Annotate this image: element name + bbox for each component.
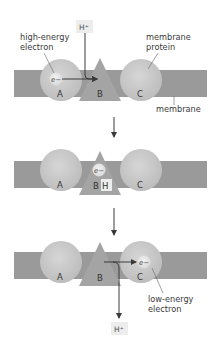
proton-label: H⁺ — [114, 325, 124, 334]
proton-label: H⁺ — [79, 23, 89, 32]
high-energy-label-1: high-energy — [20, 32, 69, 42]
protein-c-label: C — [137, 180, 143, 190]
membrane-protein-label-1: membrane — [146, 32, 191, 42]
panel-3: e− A B C H⁺ low-energy electron — [14, 241, 207, 335]
electron-label: e− — [139, 259, 149, 267]
protein-a-label: A — [57, 180, 63, 190]
panel-2: e− H A B C — [14, 149, 207, 195]
membrane-protein-label-2: protein — [146, 42, 175, 52]
low-energy-label-2: electron — [148, 304, 181, 314]
protein-b-label: B — [97, 89, 103, 99]
electron-label: e− — [94, 167, 104, 175]
panel-1: e− A B C H⁺ high-energy electron membran… — [14, 20, 207, 114]
membrane-label: membrane — [156, 104, 201, 114]
high-energy-label-2: electron — [20, 42, 53, 52]
protein-b-label: B — [93, 181, 99, 191]
protein-b-label: B — [97, 273, 103, 283]
proton-label: H — [102, 181, 108, 191]
electron-transport-diagram: e− A B C H⁺ high-energy electron membran… — [0, 0, 218, 346]
electron-label: e− — [51, 76, 61, 84]
protein-c-label: C — [137, 89, 143, 99]
protein-a-label: A — [57, 89, 63, 99]
protein-c-label: C — [137, 272, 143, 282]
low-energy-label-1: low-energy — [148, 294, 194, 304]
protein-a-label: A — [57, 272, 63, 282]
